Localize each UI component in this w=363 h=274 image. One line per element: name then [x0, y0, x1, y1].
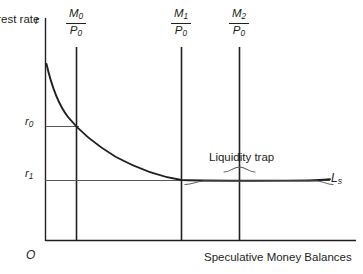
- m1-numerator: M1: [171, 8, 191, 24]
- m2-numerator: M2: [229, 8, 249, 24]
- x-axis-title: Speculative Money Balances: [204, 251, 352, 264]
- m0-denominator: P0: [70, 24, 82, 39]
- liquidity-trap-diagram: Interest rate r r0 r1 M0 P0 M1 P0 M2 P0 …: [0, 0, 363, 274]
- money-supply-label-m2: M2 P0: [221, 8, 257, 38]
- curve-label-ls: Ls: [331, 172, 342, 187]
- money-supply-label-m1: M1 P0: [163, 8, 199, 38]
- y-tick-label-r1: r1: [25, 167, 33, 182]
- diagram-canvas: [0, 0, 363, 274]
- money-demand-curve-ls: [47, 64, 331, 181]
- m2-denominator: P0: [233, 24, 245, 39]
- liquidity-trap-annotation: Liquidity trap: [209, 151, 274, 164]
- y-axis-symbol: r: [35, 14, 39, 27]
- y-tick-label-r0: r0: [25, 115, 33, 130]
- origin-label: O: [26, 249, 35, 262]
- m1-denominator: P0: [175, 24, 187, 39]
- m0-numerator: M0: [66, 8, 86, 24]
- money-supply-label-m0: M0 P0: [58, 8, 94, 38]
